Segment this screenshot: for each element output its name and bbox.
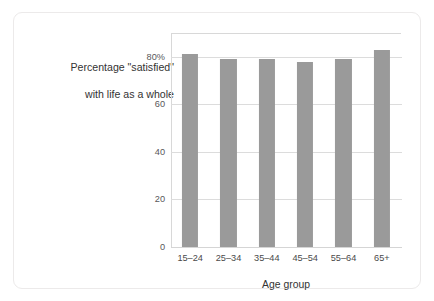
y-tick-label-40: 40 xyxy=(155,147,165,157)
figure-card: Percentage "satisfied" with life as a wh… xyxy=(13,12,421,289)
x-tick-label: 55–64 xyxy=(331,253,357,263)
chart-title-line-1: Percentage "satisfied" xyxy=(22,61,174,75)
x-tick-label: 65+ xyxy=(374,253,390,263)
plot-area: 020406080% 15–2425–3435–4445–5455–6465+ xyxy=(171,33,401,247)
x-tick-label: 45–54 xyxy=(292,253,318,263)
y-tick-label-0: 0 xyxy=(160,242,165,252)
bar-group: 65+ xyxy=(363,33,401,247)
bar[interactable] xyxy=(374,50,390,247)
y-tick-label-60: 60 xyxy=(155,99,165,109)
bar[interactable] xyxy=(259,59,275,247)
bar[interactable] xyxy=(220,59,236,247)
bars-group: 15–2425–3435–4445–5455–6465+ xyxy=(171,33,401,247)
y-tick-label-80: 80% xyxy=(147,52,165,62)
gridline-0 xyxy=(171,247,402,248)
x-tick-label: 25–34 xyxy=(216,253,242,263)
chart-title-line-2: with life as a whole xyxy=(22,88,174,102)
bar[interactable] xyxy=(335,59,351,247)
bar-group: 15–24 xyxy=(171,33,209,247)
x-tick-label: 35–44 xyxy=(254,253,280,263)
bar[interactable] xyxy=(297,62,313,247)
bar-group: 35–44 xyxy=(248,33,286,247)
x-tick-label: 15–24 xyxy=(177,253,203,263)
bar[interactable] xyxy=(182,54,198,247)
bar-group: 55–64 xyxy=(324,33,362,247)
bar-group: 25–34 xyxy=(209,33,247,247)
bar-group: 45–54 xyxy=(286,33,324,247)
y-tick-label-20: 20 xyxy=(155,194,165,204)
x-axis-title: Age group xyxy=(171,279,401,290)
